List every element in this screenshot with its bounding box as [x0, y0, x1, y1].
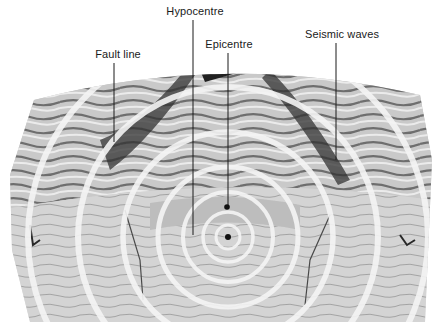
- hypocentre-dot: [225, 234, 231, 240]
- hypocentre-label: Hypocentre: [166, 5, 223, 17]
- fault-line-label: Fault line: [95, 48, 141, 60]
- epicentre-label: Epicentre: [205, 38, 252, 50]
- epicentre-dot: [224, 204, 230, 210]
- earthquake-diagram: Hypocentre Epicentre Fault line Seismic …: [0, 0, 433, 325]
- earth-block: [0, 37, 433, 325]
- seismic-waves-label: Seismic waves: [305, 28, 379, 40]
